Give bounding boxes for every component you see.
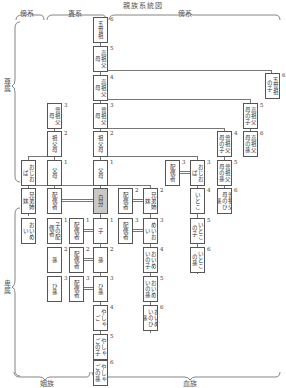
kin-node-sib: 兄弟姉妹 xyxy=(143,188,158,214)
marriage-neph xyxy=(133,229,143,232)
marriage-d3 xyxy=(84,287,93,290)
label-blood: 血族 xyxy=(183,378,197,388)
degree-number: 3 xyxy=(160,217,164,223)
degree-number: 1 xyxy=(86,217,90,223)
kin-node-self: 自分 xyxy=(93,188,108,214)
marriage-d2 xyxy=(84,258,93,261)
kin-node-hspouse: ひ孫 xyxy=(47,276,62,302)
marriage-sib xyxy=(133,199,143,202)
marriage-uncle xyxy=(180,171,190,174)
kin-node-neph_gg: おいめいのひ孫 xyxy=(143,305,158,331)
kin-node-a6: 五世祖 xyxy=(93,17,108,43)
kin-node-unc: おじおば xyxy=(190,160,205,186)
degree-number: 2 xyxy=(64,130,68,136)
degree-number: 2 xyxy=(110,246,114,252)
label-ascendants: 尊属 xyxy=(2,78,12,92)
kin-node-a5: 高祖父母 xyxy=(93,46,108,72)
kin-node-sa2: 祖父母 xyxy=(47,131,62,157)
degree-number: 5 xyxy=(160,275,164,281)
kin-node-gspouse: 孫 xyxy=(47,247,62,273)
degree-number: 6 xyxy=(110,359,114,365)
degree-number: 6 xyxy=(110,16,114,22)
kin-node-cous_c: いとこの子 xyxy=(190,218,205,244)
kin-node-sp1: 配偶者 xyxy=(69,218,84,244)
kin-node-d5: やしゃごの子 xyxy=(93,334,108,360)
degree-number: 6 xyxy=(160,304,164,310)
kin-node-spouse: 配偶者 xyxy=(47,188,62,214)
kin-node-sp2: 配偶者 xyxy=(69,247,84,273)
kin-node-snephew: おいめい xyxy=(21,218,36,244)
degree-number: 3 xyxy=(135,217,139,223)
kin-node-neph: めいおい xyxy=(143,218,158,244)
marriage-self xyxy=(62,199,93,202)
degree-number: 2 xyxy=(135,187,139,193)
kin-node-a4: 高祖父母 xyxy=(93,75,108,101)
link-a3 xyxy=(101,128,224,129)
degree-number: 2 xyxy=(160,187,164,193)
kin-node-d1: 子 xyxy=(93,218,108,244)
kin-node-hg_g: 高祖父母の孫 xyxy=(243,131,258,157)
degree-number: 6 xyxy=(234,187,238,193)
degree-number: 4 xyxy=(207,187,211,193)
degree-number: 3 xyxy=(110,102,114,108)
label-descendants: 卑属 xyxy=(2,280,12,294)
degree-number: 2 xyxy=(86,246,90,252)
degree-number: 2 xyxy=(110,130,114,136)
kin-node-gg_g: 曾祖父母の孫 xyxy=(217,160,232,186)
kin-node-a2: 祖父母 xyxy=(93,131,108,157)
degree-number: 5 xyxy=(234,159,238,165)
kin-node-fg_c: 五世祖の子 xyxy=(265,73,280,99)
degree-number: 4 xyxy=(110,74,114,80)
kin-node-neph_c: おいめいの子 xyxy=(143,247,158,273)
kin-node-sauncle: おじおば xyxy=(21,160,36,186)
marriage-d1 xyxy=(84,229,93,232)
kin-node-cous_g: いとこの孫 xyxy=(190,247,205,273)
kin-node-hg_c: 高祖父母の子 xyxy=(243,103,258,129)
degree-number: 1 xyxy=(64,159,68,165)
kin-node-cspouse: 子の配偶者 xyxy=(47,218,62,244)
kin-node-a1: 父母 xyxy=(93,160,108,186)
kin-node-sp3: 配偶者 xyxy=(69,276,84,302)
degree-number: 3 xyxy=(110,275,114,281)
link-a1 xyxy=(101,185,150,186)
kin-node-d4: やしゃご xyxy=(93,305,108,331)
kin-node-neph_g: おいめいの孫 xyxy=(143,276,158,302)
degree-number: 3 xyxy=(182,159,186,165)
kin-node-sibsp: 配偶者 xyxy=(118,188,133,214)
degree-number: 1 xyxy=(64,217,68,223)
kin-node-d3: ひ孫 xyxy=(93,276,108,302)
degree-number: 3 xyxy=(86,275,90,281)
degree-number: 6 xyxy=(260,130,264,136)
degree-number: 3 xyxy=(64,102,68,108)
kin-node-sa1: 父母 xyxy=(47,160,62,186)
degree-number: 3 xyxy=(207,159,211,165)
kin-node-neph_sp: 配偶者 xyxy=(118,218,133,244)
degree-number: 5 xyxy=(207,217,211,223)
degree-number: 6 xyxy=(282,72,286,78)
degree-number: 1 xyxy=(110,217,114,223)
kin-node-gg_gg: 曾祖父母のひ孫 xyxy=(217,188,232,214)
degree-number: 5 xyxy=(110,45,114,51)
link-self-spouse-top xyxy=(28,185,100,186)
kin-node-gg_c: 曾祖父母の子 xyxy=(217,131,232,157)
degree-number: 5 xyxy=(260,102,264,108)
degree-number: 4 xyxy=(234,130,238,136)
link-a4 xyxy=(101,99,251,100)
label-affinity: 姻族 xyxy=(40,378,54,388)
degree-number: 2 xyxy=(64,246,68,252)
degree-number: 3 xyxy=(64,275,68,281)
degree-number: 1 xyxy=(110,159,114,165)
kin-node-a3: 曾祖父母 xyxy=(93,103,108,129)
kin-node-ssib: 兄弟姉妹 xyxy=(21,188,36,214)
degree-number: 4 xyxy=(160,246,164,252)
degree-number: 4 xyxy=(110,304,114,310)
link-a2 xyxy=(101,156,197,157)
kin-node-cous: いとこ xyxy=(190,188,205,214)
kin-node-unc_sp: 配偶者 xyxy=(165,160,180,186)
kin-node-d6: やしゃごの孫 xyxy=(93,360,108,386)
kin-node-d2: 孫 xyxy=(93,247,108,273)
kin-node-sa3: 曾祖父母 xyxy=(47,103,62,129)
link-a5 xyxy=(101,70,272,71)
degree-number: 6 xyxy=(207,246,211,252)
degree-number: 5 xyxy=(110,333,114,339)
